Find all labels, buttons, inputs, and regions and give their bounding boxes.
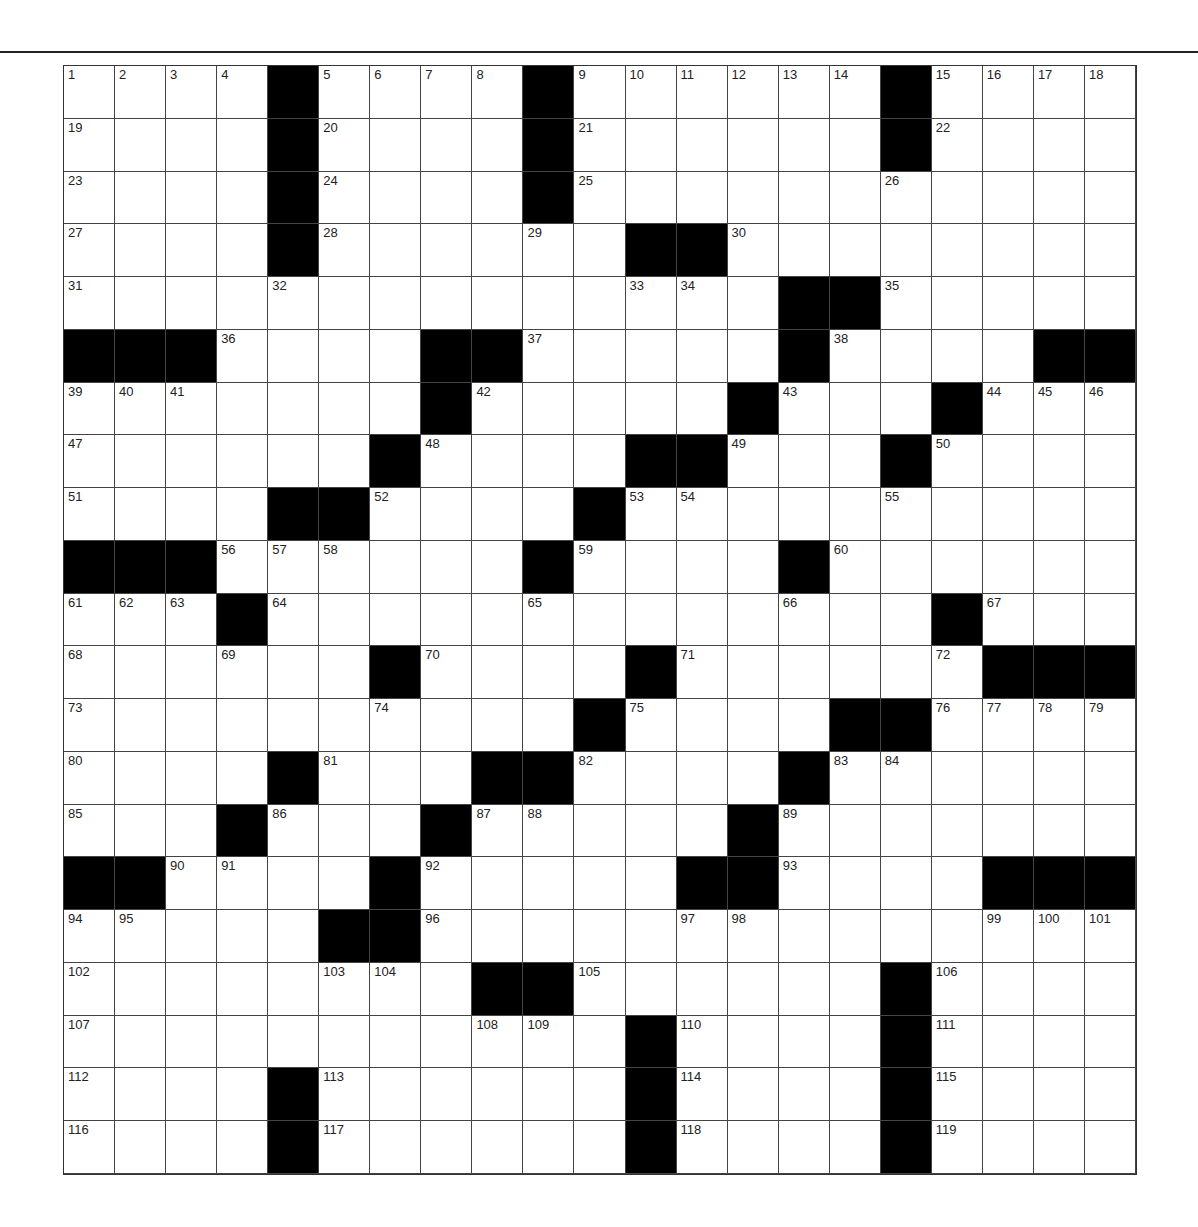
grid-cell[interactable]: 97 — [677, 910, 728, 963]
grid-cell[interactable]: 4 — [217, 66, 268, 119]
grid-cell[interactable] — [268, 646, 319, 699]
grid-cell[interactable] — [830, 172, 881, 225]
grid-cell[interactable] — [523, 435, 574, 488]
grid-cell[interactable] — [370, 224, 421, 277]
grid-cell[interactable] — [728, 330, 779, 383]
grid-cell[interactable] — [421, 1016, 472, 1069]
grid-cell[interactable] — [370, 172, 421, 225]
grid-cell[interactable] — [1034, 224, 1085, 277]
grid-cell[interactable]: 8 — [472, 66, 523, 119]
grid-cell[interactable] — [677, 963, 728, 1016]
grid-cell[interactable]: 84 — [881, 752, 932, 805]
grid-cell[interactable]: 16 — [983, 66, 1034, 119]
grid-cell[interactable]: 94 — [64, 910, 115, 963]
grid-cell[interactable] — [217, 383, 268, 436]
grid-cell[interactable] — [881, 646, 932, 699]
grid-cell[interactable]: 81 — [319, 752, 370, 805]
grid-cell[interactable] — [268, 963, 319, 1016]
grid-cell[interactable] — [115, 752, 166, 805]
grid-cell[interactable] — [1034, 541, 1085, 594]
grid-cell[interactable] — [1034, 277, 1085, 330]
grid-cell[interactable] — [830, 1016, 881, 1069]
grid-cell[interactable] — [217, 752, 268, 805]
grid-cell[interactable]: 86 — [268, 805, 319, 858]
grid-cell[interactable] — [421, 1068, 472, 1121]
grid-cell[interactable] — [574, 1068, 625, 1121]
grid-cell[interactable] — [421, 1121, 472, 1174]
grid-cell[interactable] — [779, 1068, 830, 1121]
grid-cell[interactable] — [370, 1016, 421, 1069]
grid-cell[interactable] — [983, 1068, 1034, 1121]
grid-cell[interactable] — [217, 277, 268, 330]
grid-cell[interactable] — [268, 383, 319, 436]
grid-cell[interactable]: 101 — [1085, 910, 1136, 963]
grid-cell[interactable]: 12 — [728, 66, 779, 119]
grid-cell[interactable] — [932, 172, 983, 225]
grid-cell[interactable] — [166, 963, 217, 1016]
grid-cell[interactable]: 5 — [319, 66, 370, 119]
grid-cell[interactable] — [115, 1068, 166, 1121]
grid-cell[interactable]: 52 — [370, 488, 421, 541]
grid-cell[interactable] — [217, 435, 268, 488]
grid-cell[interactable] — [1085, 435, 1136, 488]
grid-cell[interactable] — [166, 119, 217, 172]
grid-cell[interactable]: 65 — [523, 594, 574, 647]
grid-cell[interactable] — [626, 963, 677, 1016]
grid-cell[interactable] — [881, 541, 932, 594]
grid-cell[interactable] — [677, 752, 728, 805]
grid-cell[interactable] — [268, 910, 319, 963]
grid-cell[interactable]: 102 — [64, 963, 115, 1016]
grid-cell[interactable]: 10 — [626, 66, 677, 119]
grid-cell[interactable] — [728, 752, 779, 805]
grid-cell[interactable]: 58 — [319, 541, 370, 594]
grid-cell[interactable] — [983, 1121, 1034, 1174]
grid-cell[interactable] — [1085, 752, 1136, 805]
grid-cell[interactable]: 20 — [319, 119, 370, 172]
grid-cell[interactable] — [472, 646, 523, 699]
grid-cell[interactable]: 61 — [64, 594, 115, 647]
grid-cell[interactable] — [1085, 224, 1136, 277]
grid-cell[interactable] — [166, 1121, 217, 1174]
grid-cell[interactable]: 112 — [64, 1068, 115, 1121]
grid-cell[interactable]: 63 — [166, 594, 217, 647]
grid-cell[interactable]: 106 — [932, 963, 983, 1016]
grid-cell[interactable] — [677, 383, 728, 436]
grid-cell[interactable] — [728, 119, 779, 172]
grid-cell[interactable] — [1034, 752, 1085, 805]
grid-cell[interactable] — [932, 805, 983, 858]
grid-cell[interactable] — [728, 646, 779, 699]
grid-cell[interactable] — [115, 646, 166, 699]
grid-cell[interactable]: 57 — [268, 541, 319, 594]
grid-cell[interactable] — [115, 277, 166, 330]
grid-cell[interactable]: 17 — [1034, 66, 1085, 119]
grid-cell[interactable] — [472, 1121, 523, 1174]
grid-cell[interactable] — [728, 594, 779, 647]
grid-cell[interactable]: 27 — [64, 224, 115, 277]
grid-cell[interactable] — [166, 752, 217, 805]
grid-cell[interactable] — [319, 383, 370, 436]
grid-cell[interactable] — [830, 594, 881, 647]
grid-cell[interactable] — [779, 1016, 830, 1069]
grid-cell[interactable] — [319, 1016, 370, 1069]
grid-cell[interactable]: 77 — [983, 699, 1034, 752]
grid-cell[interactable] — [217, 1121, 268, 1174]
grid-cell[interactable] — [983, 435, 1034, 488]
grid-cell[interactable]: 24 — [319, 172, 370, 225]
grid-cell[interactable] — [881, 910, 932, 963]
grid-cell[interactable] — [370, 277, 421, 330]
grid-cell[interactable]: 32 — [268, 277, 319, 330]
grid-cell[interactable] — [881, 383, 932, 436]
grid-cell[interactable] — [421, 277, 472, 330]
grid-cell[interactable] — [677, 330, 728, 383]
grid-cell[interactable] — [677, 119, 728, 172]
grid-cell[interactable] — [217, 910, 268, 963]
grid-cell[interactable] — [830, 1068, 881, 1121]
grid-cell[interactable]: 41 — [166, 383, 217, 436]
grid-cell[interactable] — [728, 488, 779, 541]
grid-cell[interactable] — [319, 330, 370, 383]
grid-cell[interactable] — [166, 224, 217, 277]
grid-cell[interactable] — [983, 963, 1034, 1016]
grid-cell[interactable] — [574, 805, 625, 858]
grid-cell[interactable] — [626, 752, 677, 805]
grid-cell[interactable]: 95 — [115, 910, 166, 963]
